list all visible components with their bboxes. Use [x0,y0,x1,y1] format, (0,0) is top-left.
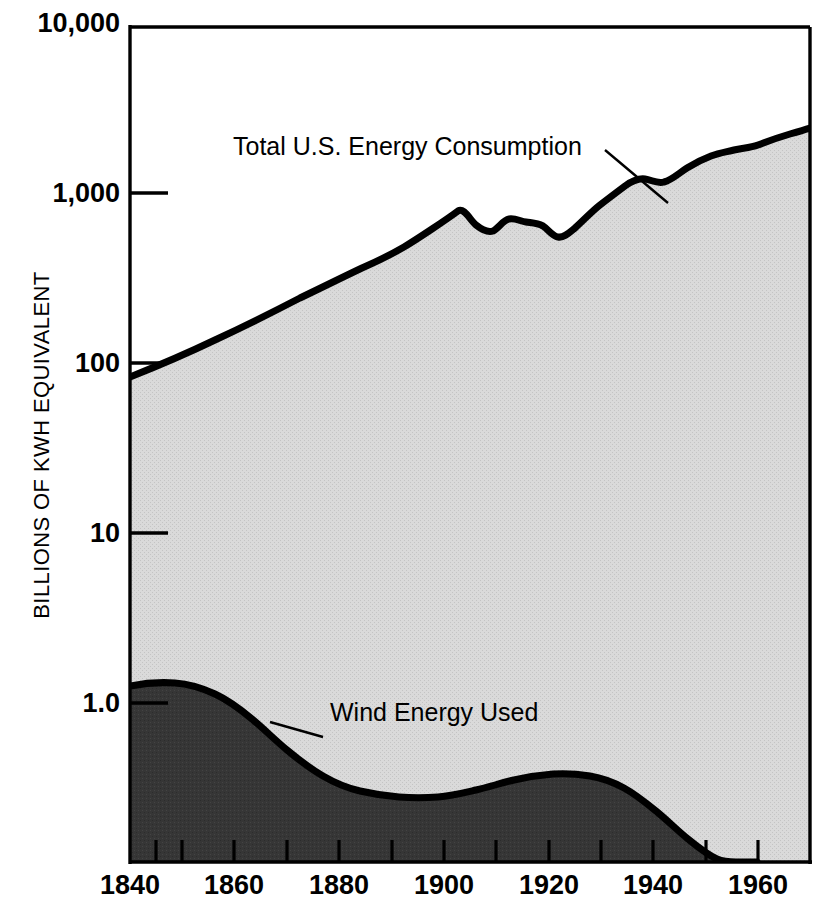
x-tick-label-1840: 1840 [70,872,190,899]
chart-figure: BILLIONS OF KWH EQUIVALENT 10,000 1,000 … [0,0,822,905]
x-tick-label-1920: 1920 [489,872,609,899]
y-axis-title: BILLIONS OF KWH EQUIVALENT [29,235,55,655]
x-tick-label-1900: 1900 [384,872,504,899]
y-tick-label-1000: 1,000 [0,180,120,207]
x-tick-label-1860: 1860 [174,872,294,899]
y-tick-label-10: 10 [0,520,120,547]
y-tick-label-10000: 10,000 [0,10,120,37]
x-tick-label-1960: 1960 [698,872,818,899]
annotation-total-energy: Total U.S. Energy Consumption [233,134,582,159]
annotation-wind-energy: Wind Energy Used [330,700,538,725]
x-tick-label-1940: 1940 [593,872,713,899]
y-tick-label-100: 100 [0,350,120,377]
x-tick-label-1880: 1880 [279,872,399,899]
y-tick-label-1: 1.0 [0,690,120,717]
